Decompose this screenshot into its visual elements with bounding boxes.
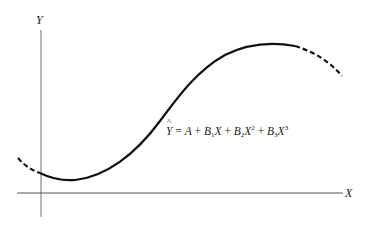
term-x3: X (278, 125, 285, 137)
term-b2: B (234, 125, 241, 137)
regression-equation: Y = A + B1X + B2X2 + B3X3 (166, 124, 288, 139)
plus-2: + (222, 125, 234, 137)
curve-left-dashed (18, 158, 40, 173)
plus-1: + (192, 125, 204, 137)
diagram-canvas: Y X (0, 0, 366, 225)
y-axis-label: Y (36, 13, 44, 27)
x3-superscript: 3 (285, 124, 289, 132)
plus-3: + (255, 125, 267, 137)
eq-sign: = (172, 125, 184, 137)
x-axis-label: X (344, 186, 353, 200)
term-a: A (185, 125, 192, 137)
curve-right-dashed (295, 46, 342, 76)
curve-solid (40, 44, 295, 180)
term-x1: X (214, 125, 221, 137)
y-hat-symbol: Y (166, 125, 172, 137)
term-b1: B (204, 125, 211, 137)
